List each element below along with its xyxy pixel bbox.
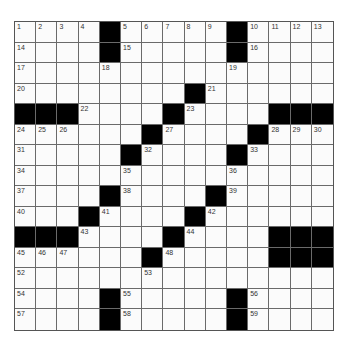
grid-cell[interactable] [206, 309, 227, 330]
grid-cell[interactable] [185, 289, 206, 310]
grid-cell[interactable] [100, 268, 121, 289]
grid-cell[interactable] [163, 207, 184, 228]
grid-cell[interactable] [206, 43, 227, 64]
grid-cell[interactable] [121, 63, 142, 84]
grid-cell[interactable]: 25 [36, 125, 57, 146]
grid-cell[interactable] [269, 207, 290, 228]
grid-cell[interactable]: 48 [163, 248, 184, 269]
grid-cell[interactable] [36, 84, 57, 105]
grid-cell[interactable]: 29 [291, 125, 312, 146]
grid-cell[interactable] [291, 186, 312, 207]
grid-cell[interactable] [227, 227, 248, 248]
grid-cell[interactable] [100, 227, 121, 248]
grid-cell[interactable] [36, 186, 57, 207]
grid-cell[interactable] [121, 227, 142, 248]
grid-cell[interactable] [142, 43, 163, 64]
grid-cell[interactable]: 42 [206, 207, 227, 228]
grid-cell[interactable] [100, 104, 121, 125]
grid-cell[interactable] [36, 289, 57, 310]
grid-cell[interactable] [57, 145, 78, 166]
grid-cell[interactable] [79, 268, 100, 289]
grid-cell[interactable] [36, 63, 57, 84]
grid-cell[interactable]: 6 [142, 22, 163, 43]
grid-cell[interactable]: 17 [15, 63, 36, 84]
grid-cell[interactable] [206, 289, 227, 310]
grid-cell[interactable] [57, 84, 78, 105]
grid-cell[interactable] [269, 63, 290, 84]
grid-cell[interactable]: 13 [312, 22, 333, 43]
grid-cell[interactable] [142, 104, 163, 125]
grid-cell[interactable] [291, 63, 312, 84]
grid-cell[interactable]: 30 [312, 125, 333, 146]
grid-cell[interactable] [79, 248, 100, 269]
grid-cell[interactable] [100, 166, 121, 187]
grid-cell[interactable]: 5 [121, 22, 142, 43]
grid-cell[interactable]: 43 [79, 227, 100, 248]
grid-cell[interactable]: 12 [291, 22, 312, 43]
grid-cell[interactable] [269, 43, 290, 64]
grid-cell[interactable] [227, 104, 248, 125]
grid-cell[interactable]: 56 [248, 289, 269, 310]
grid-cell[interactable] [142, 186, 163, 207]
grid-cell[interactable] [269, 309, 290, 330]
grid-cell[interactable]: 26 [57, 125, 78, 146]
grid-cell[interactable]: 52 [15, 268, 36, 289]
grid-cell[interactable] [36, 309, 57, 330]
grid-cell[interactable]: 22 [79, 104, 100, 125]
grid-cell[interactable]: 21 [206, 84, 227, 105]
grid-cell[interactable] [142, 309, 163, 330]
grid-cell[interactable] [185, 248, 206, 269]
grid-cell[interactable]: 10 [248, 22, 269, 43]
grid-cell[interactable]: 33 [248, 145, 269, 166]
grid-cell[interactable] [79, 186, 100, 207]
grid-cell[interactable] [185, 125, 206, 146]
grid-cell[interactable]: 47 [57, 248, 78, 269]
grid-cell[interactable] [57, 43, 78, 64]
grid-cell[interactable]: 27 [163, 125, 184, 146]
grid-cell[interactable]: 44 [185, 227, 206, 248]
grid-cell[interactable] [57, 166, 78, 187]
grid-cell[interactable] [79, 309, 100, 330]
grid-cell[interactable] [142, 207, 163, 228]
grid-cell[interactable]: 32 [142, 145, 163, 166]
grid-cell[interactable]: 31 [15, 145, 36, 166]
grid-cell[interactable]: 34 [15, 166, 36, 187]
grid-cell[interactable] [185, 268, 206, 289]
grid-cell[interactable] [291, 268, 312, 289]
grid-cell[interactable]: 40 [15, 207, 36, 228]
grid-cell[interactable] [291, 207, 312, 228]
grid-cell[interactable] [185, 186, 206, 207]
grid-cell[interactable] [248, 268, 269, 289]
grid-cell[interactable] [206, 104, 227, 125]
grid-cell[interactable] [142, 166, 163, 187]
grid-cell[interactable] [291, 289, 312, 310]
grid-cell[interactable]: 7 [163, 22, 184, 43]
grid-cell[interactable] [163, 289, 184, 310]
grid-cell[interactable]: 41 [100, 207, 121, 228]
grid-cell[interactable] [79, 125, 100, 146]
grid-cell[interactable] [312, 63, 333, 84]
grid-cell[interactable] [248, 186, 269, 207]
grid-cell[interactable]: 11 [269, 22, 290, 43]
grid-cell[interactable] [36, 268, 57, 289]
grid-cell[interactable]: 20 [15, 84, 36, 105]
grid-cell[interactable] [185, 43, 206, 64]
grid-cell[interactable] [163, 186, 184, 207]
grid-cell[interactable] [163, 145, 184, 166]
grid-cell[interactable] [312, 43, 333, 64]
grid-cell[interactable] [100, 125, 121, 146]
grid-cell[interactable]: 3 [57, 22, 78, 43]
grid-cell[interactable] [248, 227, 269, 248]
grid-cell[interactable]: 55 [121, 289, 142, 310]
grid-cell[interactable] [185, 166, 206, 187]
grid-cell[interactable]: 14 [15, 43, 36, 64]
grid-cell[interactable] [142, 63, 163, 84]
grid-cell[interactable] [312, 186, 333, 207]
grid-cell[interactable] [57, 63, 78, 84]
grid-cell[interactable] [79, 289, 100, 310]
grid-cell[interactable] [269, 166, 290, 187]
grid-cell[interactable] [100, 84, 121, 105]
grid-cell[interactable] [227, 207, 248, 228]
grid-cell[interactable] [269, 84, 290, 105]
grid-cell[interactable] [36, 43, 57, 64]
